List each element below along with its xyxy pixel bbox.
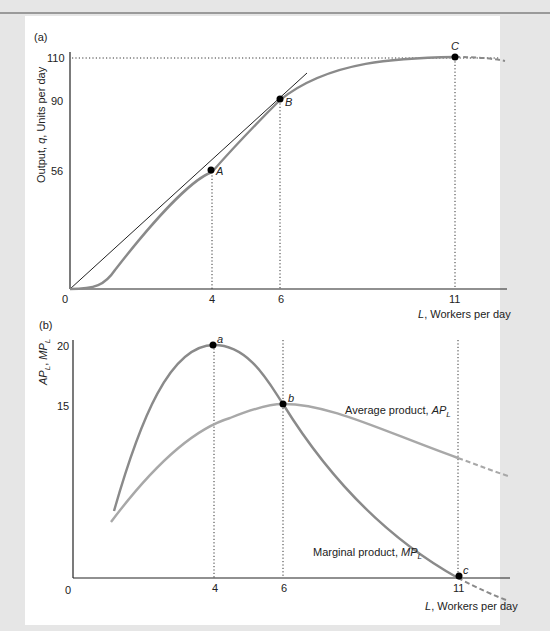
mp-label-sub: L: [418, 552, 422, 561]
ytick-56: 56: [51, 165, 63, 177]
ytick-110: 110: [47, 52, 65, 64]
xtick-4-a: 4: [209, 293, 215, 305]
mp-label-text: Marginal product,: [313, 546, 401, 558]
point-a-label: a: [217, 333, 223, 345]
marginal-product-label: Marginal product, MPL: [313, 546, 422, 561]
xtick-6-a: 6: [278, 293, 284, 305]
xtick-4-b: 4: [212, 582, 218, 594]
y-axis-label-b: APL, MPL: [37, 339, 52, 385]
ylabel-mp-sub: L: [43, 339, 52, 343]
point-a: [210, 342, 217, 349]
ap-label-var: AP: [432, 404, 447, 416]
chart-b: [73, 340, 510, 600]
x-axis-label-b: L, Workers per day: [425, 600, 518, 612]
xlabel-suffix-a: , Workers per day: [424, 308, 511, 320]
ylabel-var: q: [35, 138, 47, 144]
xlabel-suffix-b: , Workers per day: [431, 600, 518, 612]
panel-b-label: (b): [39, 319, 52, 331]
xtick-11-b: 11: [453, 582, 464, 594]
chart-a: [70, 52, 507, 289]
average-product-label: Average product, APL: [345, 404, 451, 419]
ylabel-prefix: Output,: [35, 144, 47, 183]
mp-label-var: MP: [401, 546, 418, 558]
point-c: [456, 573, 463, 580]
ap-label-text: Average product,: [345, 404, 432, 416]
point-c-label: c: [463, 564, 469, 576]
ylabel-ap: AP: [37, 370, 49, 385]
panel-a-label: (a): [34, 31, 47, 43]
point-B: [277, 96, 284, 103]
ytick-15: 15: [57, 400, 69, 412]
origin-b: 0: [65, 584, 71, 596]
y-axis-label-a: Output, q, Units per day: [35, 67, 47, 183]
x-axis-label-a: L, Workers per day: [418, 308, 511, 320]
total-product-curve: [70, 57, 455, 289]
ylabel-sep: ,: [37, 360, 49, 366]
ylabel-mp: MP: [37, 343, 49, 360]
point-b-label: b: [288, 392, 294, 404]
ylabel-suffix: , Units per day: [35, 67, 47, 138]
point-B-label: B: [285, 96, 292, 108]
xtick-11-a: 11: [449, 293, 460, 305]
ylabel-ap-sub: L: [43, 366, 52, 370]
point-b: [280, 401, 287, 408]
marginal-product-curve: [114, 345, 458, 578]
xtick-6-b: 6: [281, 582, 287, 594]
ytick-90: 90: [51, 95, 63, 107]
marginal-product-dashed: [458, 578, 506, 600]
ytick-20: 20: [57, 340, 69, 352]
point-A-label: A: [216, 165, 223, 177]
ap-label-sub: L: [446, 410, 450, 419]
average-product-curve: [111, 404, 458, 522]
average-product-dashed: [458, 458, 508, 476]
point-C: [452, 54, 459, 61]
origin-a: 0: [62, 293, 68, 305]
ray-from-origin: [70, 73, 307, 289]
point-A: [208, 167, 215, 174]
point-C-label: C: [451, 40, 459, 52]
